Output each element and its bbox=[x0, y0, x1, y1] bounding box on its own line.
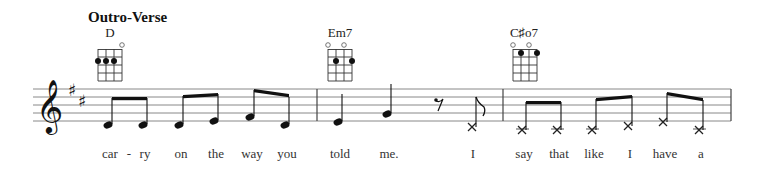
chord-grid bbox=[513, 49, 537, 81]
finger-dot-icon bbox=[111, 58, 117, 64]
sheet-music: Outro-Verse D Em7 C♯o7 bbox=[0, 0, 765, 179]
measure-1 bbox=[103, 89, 291, 130]
finger-dot-icon bbox=[333, 58, 339, 64]
chord-grid bbox=[98, 49, 122, 81]
finger-dot-icon bbox=[95, 58, 101, 64]
lyric-hyphen: - bbox=[127, 146, 131, 161]
lyric-syllable: you bbox=[277, 146, 297, 161]
lyrics: car - ry on the way you told me. I say t… bbox=[102, 146, 704, 161]
lyric-syllable: have bbox=[653, 146, 678, 161]
lyric-syllable: that bbox=[549, 146, 569, 161]
lyric-syllable: I bbox=[471, 146, 475, 161]
measure-2 bbox=[333, 84, 485, 131]
open-string-icon bbox=[120, 43, 125, 48]
open-string-icon bbox=[527, 43, 532, 48]
sharp-icon: ♯ bbox=[78, 91, 86, 111]
finger-dot-icon bbox=[518, 50, 524, 56]
lyric-syllable: car bbox=[102, 146, 119, 161]
chord-diagram-d: D bbox=[95, 25, 124, 81]
chord-grid bbox=[328, 49, 352, 81]
finger-dot-icon bbox=[534, 50, 540, 56]
lyric-syllable: way bbox=[241, 146, 263, 161]
lyric-syllable: like bbox=[584, 146, 604, 161]
chord-name: C♯o7 bbox=[510, 25, 539, 40]
treble-clef-icon: 𝄞 bbox=[36, 79, 63, 135]
section-title: Outro-Verse bbox=[88, 9, 167, 25]
staff bbox=[33, 89, 731, 121]
open-string-icon bbox=[342, 43, 347, 48]
open-string-icon bbox=[326, 43, 331, 48]
chord-diagram-em7: Em7 bbox=[326, 25, 355, 81]
lyric-syllable: say bbox=[515, 146, 533, 161]
lyric-syllable: I bbox=[628, 146, 632, 161]
sharp-icon: ♯ bbox=[68, 80, 76, 100]
x-note-head bbox=[468, 97, 485, 131]
chord-name: Em7 bbox=[328, 25, 353, 40]
lyric-syllable: on bbox=[175, 146, 189, 161]
open-string-icon bbox=[511, 43, 516, 48]
lyric-syllable: me. bbox=[379, 146, 398, 161]
lyric-syllable: a bbox=[698, 146, 704, 161]
finger-dot-icon bbox=[349, 58, 355, 64]
chord-name: D bbox=[105, 25, 114, 40]
finger-dot-icon bbox=[103, 58, 109, 64]
chord-diagram-csharp-dim7: C♯o7 bbox=[510, 25, 540, 81]
lyric-syllable: told bbox=[330, 146, 351, 161]
lyric-syllable: ry bbox=[140, 146, 151, 161]
lyric-syllable: the bbox=[208, 146, 224, 161]
